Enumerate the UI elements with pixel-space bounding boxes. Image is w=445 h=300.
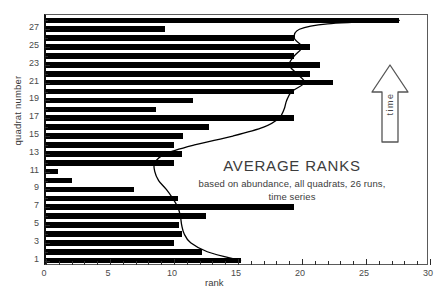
y-tick: [45, 252, 48, 253]
bar: [46, 160, 174, 166]
y-tick: [45, 181, 48, 182]
y-tick: [45, 225, 50, 226]
bar: [46, 53, 294, 59]
bar: [46, 98, 193, 104]
x-tick: [315, 261, 316, 265]
x-tick: [264, 261, 265, 265]
x-tick: [366, 259, 367, 265]
x-tick: [72, 261, 73, 265]
x-tick: [174, 259, 175, 265]
bar: [46, 133, 183, 139]
y-tick: [45, 20, 48, 21]
x-tick: [404, 261, 405, 265]
x-tick: [340, 261, 341, 265]
chart-subtitle: based on abundance, all quadrats, 26 run…: [176, 178, 408, 203]
x-tick: [110, 259, 111, 265]
y-tick: [45, 234, 48, 235]
x-tick-label: 25: [349, 268, 379, 278]
y-tick: [45, 172, 50, 173]
bar: [46, 249, 202, 255]
x-tick: [276, 261, 277, 265]
bar: [46, 222, 179, 228]
bar: [46, 178, 72, 184]
x-tick: [328, 261, 329, 265]
chart-figure: quadrat number rank 051015202530 1357911…: [0, 0, 445, 300]
chart-title: AVERAGE RANKS: [176, 157, 408, 175]
x-tick: [97, 261, 98, 265]
x-tick-label: 0: [29, 268, 59, 278]
x-tick: [379, 261, 380, 265]
x-tick: [59, 261, 60, 265]
y-tick-label: 7: [17, 200, 39, 210]
y-tick-label: 11: [17, 165, 39, 175]
x-tick-label: 15: [221, 268, 251, 278]
x-tick: [200, 261, 201, 265]
y-tick: [45, 92, 48, 93]
y-tick: [45, 189, 50, 190]
y-tick-label: 19: [17, 93, 39, 103]
y-tick-label: 5: [17, 218, 39, 228]
x-tick-label: 10: [157, 268, 187, 278]
x-tick: [289, 261, 290, 265]
bar: [46, 187, 134, 193]
bar: [46, 18, 399, 24]
y-tick: [45, 29, 50, 30]
x-tick: [430, 259, 431, 265]
y-tick: [45, 127, 48, 128]
y-tick: [45, 109, 48, 110]
bar: [46, 115, 294, 121]
x-tick-label: 30: [413, 268, 443, 278]
bar: [46, 213, 206, 219]
y-tick: [45, 216, 48, 217]
x-tick: [123, 261, 124, 265]
bar: [46, 204, 294, 210]
x-tick: [417, 261, 418, 265]
x-tick: [161, 261, 162, 265]
y-tick: [45, 83, 50, 84]
y-tick: [45, 145, 48, 146]
chart-subtitle-line-2: time series: [176, 191, 408, 204]
x-tick: [136, 261, 137, 265]
y-tick: [45, 243, 50, 244]
bar: [46, 231, 182, 237]
y-tick-label: 3: [17, 236, 39, 246]
x-tick: [225, 261, 226, 265]
x-tick: [238, 259, 239, 265]
y-tick: [45, 154, 50, 155]
x-tick: [84, 261, 85, 265]
y-tick-label: 17: [17, 111, 39, 121]
bar: [46, 196, 178, 202]
y-tick: [45, 100, 50, 101]
bar: [46, 124, 209, 130]
chart-subtitle-line-1: based on abundance, all quadrats, 26 run…: [176, 178, 408, 191]
y-tick-label: 1: [17, 254, 39, 264]
y-tick-label: 9: [17, 182, 39, 192]
y-tick: [45, 65, 50, 66]
bar: [46, 142, 174, 148]
y-tick: [45, 136, 50, 137]
x-tick: [353, 261, 354, 265]
y-tick-label: 21: [17, 76, 39, 86]
bar: [46, 80, 333, 86]
x-axis-title: rank: [205, 277, 223, 288]
y-tick: [45, 74, 48, 75]
chart-caption: AVERAGE RANKS based on abundance, all qu…: [176, 157, 408, 203]
x-tick: [302, 259, 303, 265]
y-tick-label: 23: [17, 58, 39, 68]
y-tick-label: 27: [17, 22, 39, 32]
y-tick: [45, 118, 50, 119]
y-tick: [45, 47, 50, 48]
x-tick: [392, 261, 393, 265]
y-tick-label: 13: [17, 147, 39, 157]
bar: [46, 151, 182, 157]
bar: [46, 89, 294, 95]
bar: [46, 240, 174, 246]
x-tick-label: 20: [285, 268, 315, 278]
bar: [46, 107, 156, 113]
bar: [46, 62, 320, 68]
y-tick-label: 15: [17, 129, 39, 139]
x-tick-label: 5: [93, 268, 123, 278]
y-tick: [45, 56, 48, 57]
x-tick: [148, 261, 149, 265]
bar: [46, 44, 310, 50]
